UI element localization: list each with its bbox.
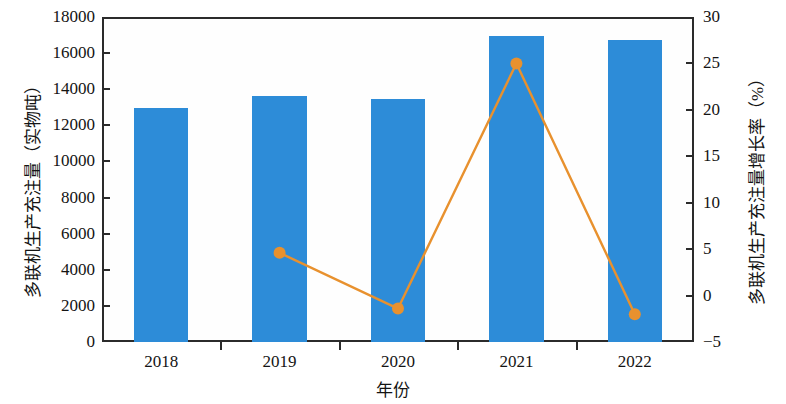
secondary-y-tick-label: 5 bbox=[703, 239, 763, 259]
secondary-y-tick-label: 25 bbox=[703, 53, 763, 73]
bar bbox=[371, 99, 425, 342]
secondary-y-tick-mark bbox=[686, 155, 694, 157]
y-tick-mark bbox=[102, 160, 110, 162]
secondary-y-tick-label: −5 bbox=[703, 332, 763, 352]
x-tick-label: 2019 bbox=[240, 352, 320, 372]
secondary-y-tick-mark bbox=[686, 248, 694, 250]
y-tick-mark bbox=[102, 305, 110, 307]
y-tick-mark bbox=[102, 233, 110, 235]
bar bbox=[608, 40, 662, 342]
x-tick-label: 2020 bbox=[358, 352, 438, 372]
bar bbox=[134, 108, 188, 342]
y-tick-mark bbox=[102, 124, 110, 126]
x-tick-mark bbox=[339, 342, 341, 350]
y-tick-label: 4000 bbox=[21, 260, 95, 280]
x-tick-mark bbox=[457, 342, 459, 350]
secondary-y-tick-label: 15 bbox=[703, 146, 763, 166]
secondary-y-tick-mark bbox=[686, 62, 694, 64]
y-tick-label: 0 bbox=[21, 332, 95, 352]
secondary-y-tick-label: 20 bbox=[703, 100, 763, 120]
x-tick-mark bbox=[220, 342, 222, 350]
chart-figure: 多联机生产充注量（实物吨） 多联机生产充注量增长率（%） 年份 02000400… bbox=[0, 0, 786, 404]
secondary-y-tick-label: 10 bbox=[703, 193, 763, 213]
y-tick-mark bbox=[102, 52, 110, 54]
secondary-y-tick-label: 30 bbox=[703, 7, 763, 27]
secondary-y-tick-mark bbox=[686, 109, 694, 111]
bar bbox=[489, 36, 543, 342]
secondary-y-tick-label: 0 bbox=[703, 286, 763, 306]
x-tick-label: 2021 bbox=[476, 352, 556, 372]
bar bbox=[252, 96, 306, 342]
y-tick-mark bbox=[102, 197, 110, 199]
secondary-y-tick-mark bbox=[686, 295, 694, 297]
x-axis-title: 年份 bbox=[0, 376, 786, 401]
y-tick-label: 18000 bbox=[21, 7, 95, 27]
y-tick-label: 8000 bbox=[21, 188, 95, 208]
y-tick-label: 10000 bbox=[21, 151, 95, 171]
y-tick-mark bbox=[102, 88, 110, 90]
x-tick-label: 2018 bbox=[121, 352, 201, 372]
y-tick-label: 12000 bbox=[21, 115, 95, 135]
y-tick-label: 16000 bbox=[21, 43, 95, 63]
y-tick-label: 14000 bbox=[21, 79, 95, 99]
secondary-y-tick-mark bbox=[686, 202, 694, 204]
x-tick-mark bbox=[576, 342, 578, 350]
y-tick-mark bbox=[102, 269, 110, 271]
x-tick-label: 2022 bbox=[595, 352, 675, 372]
y-tick-label: 2000 bbox=[21, 296, 95, 316]
y-tick-label: 6000 bbox=[21, 224, 95, 244]
